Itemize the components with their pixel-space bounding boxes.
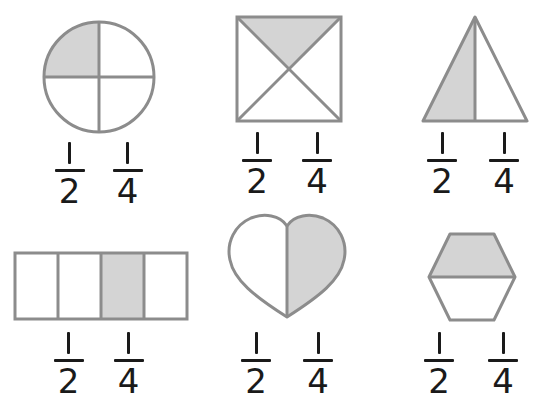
numerator-stroke	[127, 332, 130, 354]
fraction-item-rectangle: 2 4	[0, 200, 197, 400]
choice-one-half[interactable]: 2	[241, 332, 271, 400]
fraction-item-hexagon: 2 4	[377, 200, 551, 400]
choice-one-quarter[interactable]: 4	[303, 332, 333, 400]
numerator-stroke	[503, 132, 506, 154]
numerator-stroke	[441, 132, 444, 154]
denominator: 2	[431, 164, 453, 200]
denominator: 2	[428, 364, 450, 400]
numerator-stroke	[67, 332, 70, 354]
fraction-worksheet: 2 4 2	[0, 0, 551, 400]
choices-square: 2 4	[242, 132, 332, 200]
choices-hexagon: 2 4	[410, 332, 518, 400]
fraction-item-square: 2 4	[197, 0, 377, 200]
square-shape	[230, 0, 344, 126]
fraction-item-triangle: 2 4	[377, 0, 551, 200]
fraction-item-circle: 2 4	[0, 0, 197, 200]
choices-triangle: 2 4	[409, 132, 519, 200]
denominator: 4	[307, 364, 329, 400]
denominator: 2	[246, 164, 268, 200]
choice-one-quarter[interactable]: 4	[488, 332, 518, 400]
denominator: 4	[493, 164, 515, 200]
numerator-stroke	[68, 142, 71, 164]
choice-one-quarter[interactable]: 4	[114, 332, 144, 400]
numerator-stroke	[438, 332, 441, 354]
choice-one-quarter[interactable]: 4	[489, 132, 519, 200]
numerator-stroke	[255, 332, 258, 354]
rectangle-shape	[9, 200, 189, 324]
choices-rectangle: 2 4	[54, 332, 144, 400]
heart-shaded-half	[287, 216, 345, 318]
heart-shape	[224, 200, 350, 326]
numerator-stroke	[256, 132, 259, 154]
choice-one-half[interactable]: 2	[242, 132, 272, 200]
fraction-item-heart: 2 4	[197, 200, 377, 400]
numerator-stroke	[316, 132, 319, 154]
triangle-shape	[397, 0, 531, 126]
numerator-stroke	[317, 332, 320, 354]
choice-one-quarter[interactable]: 4	[302, 132, 332, 200]
rectangle-shaded-strip	[101, 254, 144, 319]
square-shaded-triangle	[237, 17, 341, 69]
choice-one-half[interactable]: 2	[427, 132, 457, 200]
denominator: 2	[58, 364, 80, 400]
numerator-stroke	[126, 142, 129, 164]
denominator: 4	[492, 364, 514, 400]
hexagon-shape	[410, 200, 518, 326]
numerator-stroke	[502, 332, 505, 354]
choices-heart: 2 4	[241, 332, 333, 400]
hexagon-shaded-half	[429, 234, 515, 277]
denominator: 4	[118, 364, 140, 400]
choice-one-half[interactable]: 2	[424, 332, 454, 400]
denominator: 2	[245, 364, 267, 400]
choice-one-half[interactable]: 2	[54, 332, 84, 400]
circle-shape	[40, 0, 158, 136]
denominator: 4	[306, 164, 328, 200]
